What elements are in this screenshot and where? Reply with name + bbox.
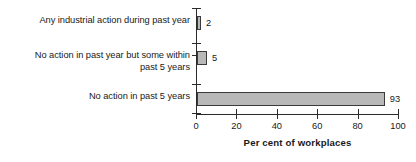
x-axis-line: [196, 114, 399, 115]
y-axis-tick: [192, 43, 201, 44]
x-axis-tick-label: 60: [312, 121, 322, 132]
bar-chart: Any industrial action during past year N…: [0, 0, 416, 162]
x-axis-tick: [358, 109, 359, 119]
x-axis-tick: [196, 109, 197, 119]
bar-2: [197, 92, 385, 106]
x-axis-tick: [398, 109, 399, 119]
bar-value-2: 93: [390, 92, 400, 106]
x-axis-title: Per cent of workplaces: [196, 137, 399, 148]
x-axis-tick-label: 100: [390, 121, 406, 132]
x-axis-tick: [236, 109, 237, 119]
x-axis-tick: [317, 109, 318, 119]
x-axis-tick-label: 0: [193, 121, 198, 132]
x-axis-tick-label: 40: [272, 121, 282, 132]
x-axis-tick: [277, 109, 278, 119]
bar-value-1: 5: [212, 51, 217, 65]
bar-value-0: 2: [206, 16, 211, 30]
bar-0: [197, 16, 201, 30]
category-label-2: No action in past 5 years: [89, 91, 190, 103]
x-axis-tick-label: 20: [231, 121, 241, 132]
y-axis-tick: [192, 8, 201, 9]
plot-area: 2 5 93: [196, 8, 398, 114]
x-axis-tick-label: 80: [352, 121, 362, 132]
bar-1: [197, 51, 207, 65]
category-label-0: Any industrial action during past year: [39, 15, 190, 27]
category-label-1: No action in past year but some within p…: [35, 50, 190, 73]
y-axis-tick: [192, 84, 201, 85]
